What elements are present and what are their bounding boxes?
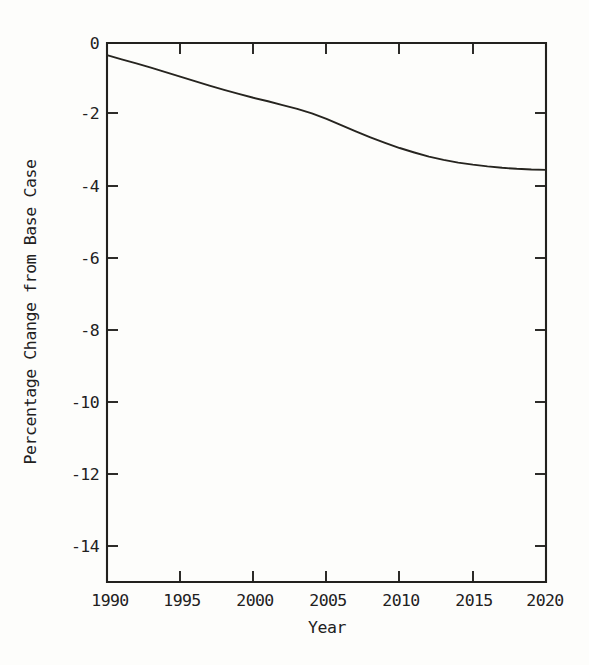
y-tick-label: -12 — [71, 465, 99, 484]
y-tick-label: -6 — [80, 249, 99, 268]
y-tick-label: 0 — [90, 34, 99, 53]
y-tick-label: -4 — [80, 177, 99, 196]
y-tick-label: -10 — [71, 393, 99, 412]
plot-frame — [107, 43, 546, 582]
x-tick-labels: 1990 1995 2000 2005 2010 2015 2020 — [91, 591, 563, 610]
x-tick-label: 2020 — [526, 591, 563, 610]
x-axis-title: Year — [308, 618, 347, 637]
x-tick-label: 2000 — [236, 591, 273, 610]
x-tick-label: 2015 — [455, 591, 492, 610]
y-tick-label: -2 — [80, 104, 99, 123]
x-tick-label: 1990 — [91, 591, 128, 610]
y-axis-title: Percentage Change from Base Case — [21, 159, 40, 464]
chart-figure: 0 -2 -4 -6 -8 -10 -12 -14 1990 1995 2000… — [0, 0, 589, 665]
line-chart-svg: 0 -2 -4 -6 -8 -10 -12 -14 1990 1995 2000… — [0, 0, 589, 665]
x-tick-label: 2010 — [382, 591, 419, 610]
y-axis-ticks — [107, 43, 118, 546]
y-tick-labels: 0 -2 -4 -6 -8 -10 -12 -14 — [71, 34, 100, 556]
x-tick-label: 2005 — [309, 591, 346, 610]
y-tick-label: -14 — [71, 537, 100, 556]
x-tick-label: 1995 — [163, 591, 200, 610]
x-axis-ticks — [180, 571, 473, 582]
y-tick-label: -8 — [80, 321, 99, 340]
x-axis-ticks-top — [180, 43, 473, 54]
data-line-series-0 — [107, 55, 546, 170]
y-axis-ticks-right — [535, 113, 546, 546]
